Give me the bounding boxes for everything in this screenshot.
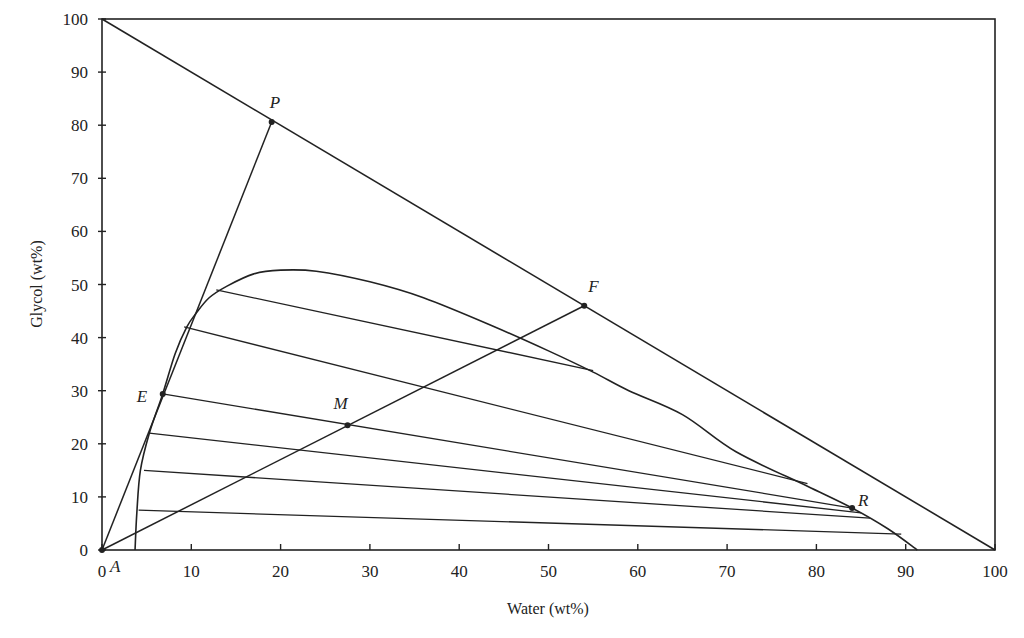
x-axis-label: Water (wt%)	[507, 600, 589, 618]
x-tick-label: 50	[540, 562, 557, 581]
x-tick-label: 40	[451, 562, 468, 581]
binodal-curve	[135, 270, 917, 550]
x-tick-label: 70	[719, 562, 736, 581]
y-tick-label: 90	[71, 63, 88, 82]
x-tick-label: 90	[897, 562, 914, 581]
point-M	[345, 422, 351, 428]
tie-line	[144, 470, 870, 518]
tie-line	[139, 510, 902, 534]
y-tick-label: 0	[80, 541, 89, 560]
x-tick-label: 0	[98, 562, 107, 581]
y-tick-label: 80	[71, 116, 88, 135]
point-E	[160, 391, 166, 397]
x-tick-label: 100	[982, 562, 1008, 581]
y-tick-label: 70	[71, 169, 88, 188]
point-A	[99, 547, 105, 553]
y-tick-label: 20	[71, 435, 88, 454]
x-tick-label: 10	[183, 562, 200, 581]
point-label-A: A	[109, 557, 121, 576]
curves	[102, 19, 995, 550]
point-label-E: E	[136, 387, 148, 406]
y-tick-label: 50	[71, 276, 88, 295]
y-tick-label: 10	[71, 488, 88, 507]
construction-line-AF	[102, 306, 584, 550]
x-tick-label: 60	[629, 562, 646, 581]
ternary-phase-diagram: 0102030405060708090100010203040506070809…	[0, 0, 1024, 638]
point-label-M: M	[333, 394, 349, 413]
x-tick-label: 30	[361, 562, 378, 581]
tie-line	[163, 394, 852, 508]
point-label-P: P	[269, 93, 280, 112]
point-label-R: R	[857, 491, 869, 510]
point-F	[581, 303, 587, 309]
x-tick-label: 20	[272, 562, 289, 581]
y-tick-label: 30	[71, 382, 88, 401]
hypotenuse-line	[102, 19, 995, 550]
construction-line-AP	[102, 122, 272, 550]
x-tick-label: 80	[808, 562, 825, 581]
tie-line	[149, 433, 861, 513]
y-axis-label: Glycol (wt%)	[28, 240, 46, 328]
point-P	[269, 119, 275, 125]
y-tick-label: 60	[71, 222, 88, 241]
point-label-F: F	[587, 277, 599, 296]
y-tick-label: 100	[63, 10, 89, 29]
point-R	[849, 505, 855, 511]
y-tick-label: 40	[71, 329, 88, 348]
